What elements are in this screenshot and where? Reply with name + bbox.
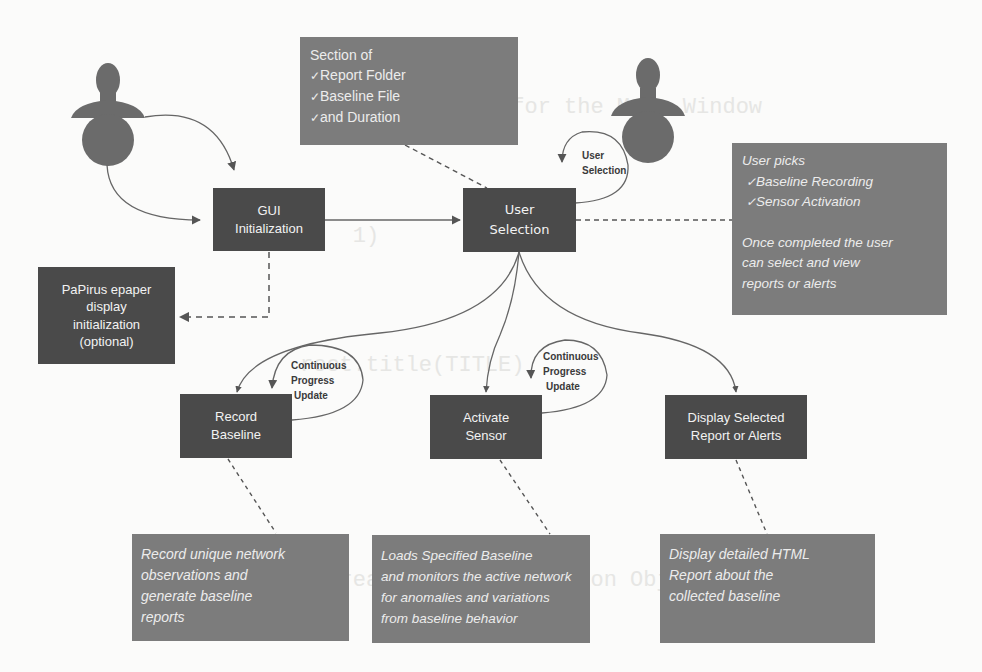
node-label: Sensor xyxy=(465,427,506,445)
loop-label-line: Continuous xyxy=(291,358,347,373)
note-text: Display detailed HTML xyxy=(669,544,866,565)
node-label: Baseline xyxy=(211,426,261,444)
node-label: Record xyxy=(215,408,257,426)
node-display-selected: Display Selected Report or Alerts xyxy=(665,395,807,459)
node-label: Selection xyxy=(490,220,550,240)
note-text: Loads Specified Baseline xyxy=(381,545,581,566)
node-label: Display Selected xyxy=(688,409,785,427)
node-gui-initialization: GUI Initialization xyxy=(213,188,325,251)
note-text: Record unique network xyxy=(141,544,340,565)
node-record-baseline: Record Baseline xyxy=(180,394,292,458)
note-text: collected baseline xyxy=(669,586,866,607)
node-label: PaPirus epaper xyxy=(62,281,152,299)
loop-label-user-selection: User Selection xyxy=(582,148,626,178)
checklist-item: Report Folder xyxy=(310,65,508,86)
node-label: User xyxy=(505,200,535,220)
checklist-item: and Duration xyxy=(310,107,508,128)
note-title: User picks xyxy=(742,151,937,172)
spacer xyxy=(742,213,937,233)
note-text: from baseline behavior xyxy=(381,608,581,629)
note-record-description: Record unique network observations and g… xyxy=(132,534,349,641)
node-activate-sensor: Activate Sensor xyxy=(430,395,542,459)
loop-label-line: Update xyxy=(543,379,599,394)
node-label: initialization xyxy=(73,316,140,334)
note-text: for anomalies and variations xyxy=(381,587,581,608)
note-text: Report about the xyxy=(669,565,866,586)
loop-label-line: Progress xyxy=(543,364,599,379)
note-user-picks: User picks Baseline Recording Sensor Act… xyxy=(732,143,947,315)
note-text: generate baseline xyxy=(141,586,340,607)
note-text: observations and xyxy=(141,565,340,586)
node-label: display xyxy=(86,298,126,316)
note-text: reports or alerts xyxy=(742,274,937,295)
note-text: Once completed the user xyxy=(742,233,937,254)
note-display-description: Display detailed HTML Report about the c… xyxy=(660,534,875,643)
note-title: Section of xyxy=(310,45,508,65)
checklist-item: Baseline File xyxy=(310,86,508,107)
node-label: Activate xyxy=(463,409,509,427)
node-label: Initialization xyxy=(235,220,303,238)
loop-label-line: Update xyxy=(291,388,347,403)
loop-label-line: Selection xyxy=(582,163,626,178)
loop-label-line: User xyxy=(582,148,626,163)
node-label: GUI xyxy=(257,202,280,220)
node-papirus-init: PaPirus epaper display initialization (o… xyxy=(38,267,175,364)
loop-label-line: Continuous xyxy=(543,349,599,364)
person-icon xyxy=(71,63,145,166)
note-text: reports xyxy=(141,607,340,628)
checklist-item: Sensor Activation xyxy=(742,192,937,213)
node-label: (optional) xyxy=(79,333,133,351)
node-label: Report or Alerts xyxy=(691,427,781,445)
checklist-item: Baseline Recording xyxy=(742,172,937,193)
loop-label-sensor-progress: Continuous Progress Update xyxy=(543,349,599,394)
note-sensor-description: Loads Specified Baseline and monitors th… xyxy=(372,535,590,643)
note-text: can select and view xyxy=(742,253,937,274)
note-section-of: Section of Report Folder Baseline File a… xyxy=(300,37,518,145)
node-user-selection: User Selection xyxy=(463,188,576,252)
loop-label-line: Progress xyxy=(291,373,347,388)
loop-label-record-progress: Continuous Progress Update xyxy=(291,358,347,403)
note-text: and monitors the active network xyxy=(381,566,581,587)
